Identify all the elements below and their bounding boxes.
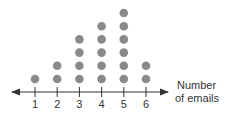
data-dot <box>97 35 106 44</box>
data-dot <box>53 75 62 84</box>
data-dot <box>142 75 151 84</box>
data-dot <box>97 75 106 84</box>
data-dot <box>75 35 84 44</box>
data-dot <box>53 62 62 71</box>
dot-plot: 123456 Number of emails <box>0 0 225 115</box>
data-dot <box>120 22 129 31</box>
data-dot <box>120 48 129 57</box>
data-dot <box>75 48 84 57</box>
data-dot <box>142 62 151 71</box>
x-axis-ticks: 123456 <box>32 87 149 110</box>
tick-label: 5 <box>121 98 127 110</box>
tick-label: 2 <box>54 98 60 110</box>
data-dot <box>75 62 84 71</box>
data-dot <box>75 75 84 84</box>
data-dot <box>120 35 129 44</box>
data-dot <box>120 62 129 71</box>
x-axis-title-line2: of emails <box>175 92 220 104</box>
data-dot <box>120 9 129 18</box>
data-dot <box>97 22 106 31</box>
tick-label: 6 <box>143 98 149 110</box>
tick-label: 1 <box>32 98 38 110</box>
tick-label: 4 <box>99 98 105 110</box>
data-dots <box>31 9 151 84</box>
tick-label: 3 <box>76 98 82 110</box>
data-dot <box>97 62 106 71</box>
data-dot <box>97 48 106 57</box>
x-axis-title-line1: Number <box>177 79 216 91</box>
data-dot <box>31 75 40 84</box>
data-dot <box>120 75 129 84</box>
